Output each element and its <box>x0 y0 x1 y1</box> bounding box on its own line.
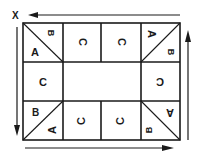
label-b: B <box>144 126 154 133</box>
label-a: A <box>146 30 158 38</box>
top-right-diagonal <box>141 23 180 62</box>
left-arrow-icon <box>14 27 20 136</box>
cell-top-3-label: C <box>116 38 128 46</box>
cell-bottom-2-label: C <box>75 117 87 125</box>
cell-bottom-left: B A <box>32 107 58 134</box>
cell-middle-right-label: C <box>156 76 164 88</box>
label-b: B <box>32 107 39 118</box>
label-a: A <box>31 46 39 58</box>
quilt-layout-diagram: X A B <box>0 0 200 159</box>
right-arrow-icon <box>185 30 191 140</box>
top-left-diagonal <box>23 23 63 62</box>
label-b: B <box>46 30 56 37</box>
label-b: B <box>166 49 176 56</box>
start-marker: X <box>12 10 19 21</box>
cell-middle-left-label: C <box>39 76 47 88</box>
top-arrow-icon <box>28 12 180 18</box>
cell-top-2-label: C <box>77 38 89 46</box>
bottom-arrow-icon <box>25 145 174 151</box>
label-a: A <box>46 126 58 134</box>
label-a: A <box>166 107 174 119</box>
cell-bottom-3-label: C <box>114 117 126 125</box>
